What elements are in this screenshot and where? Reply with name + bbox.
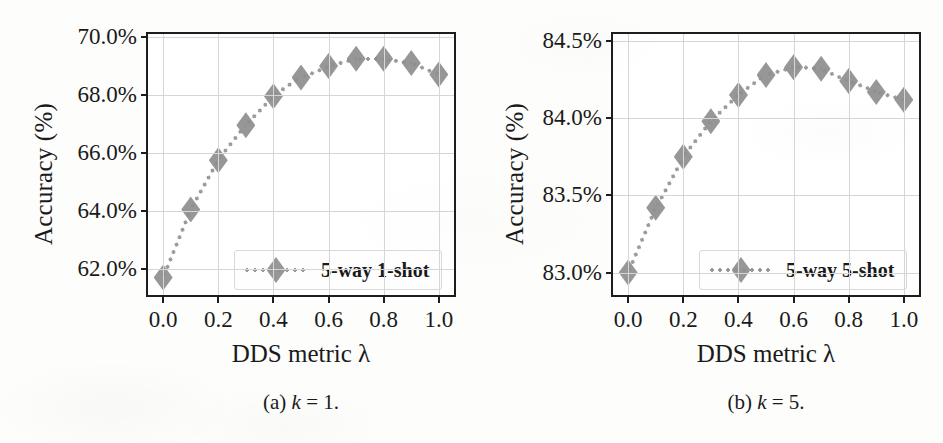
gridline-horizontal bbox=[613, 118, 919, 119]
gridline-horizontal bbox=[613, 195, 919, 196]
caption-variable-a: k bbox=[292, 390, 301, 414]
x-axis-tick-label-a-4: 0.8 bbox=[369, 307, 398, 333]
series-line-segment bbox=[161, 209, 192, 279]
x-axis-tick-label-a-2: 0.4 bbox=[259, 307, 288, 333]
x-axis-tick-label-a-5: 1.0 bbox=[424, 307, 453, 333]
y-axis-title-a: Accuracy (%) bbox=[30, 64, 58, 284]
y-axis-tick-label-a-1: 64.0% bbox=[78, 198, 137, 224]
gridline-vertical bbox=[273, 34, 274, 295]
y-axis-tick-b-1 bbox=[606, 194, 613, 196]
legend-label-b: 5-way 5-shot bbox=[786, 259, 894, 282]
gridline-vertical bbox=[794, 34, 795, 295]
gridline-horizontal bbox=[148, 95, 454, 96]
y-axis-tick-a-1 bbox=[141, 210, 148, 212]
y-axis-tick-label-a-2: 66.0% bbox=[78, 140, 137, 166]
legend-marker-sample-b bbox=[708, 257, 774, 283]
data-point-marker bbox=[757, 62, 776, 88]
x-axis-tick-b-2 bbox=[737, 295, 739, 303]
y-axis-tick-label-a-4: 70.0% bbox=[78, 24, 137, 50]
data-point-marker bbox=[292, 65, 311, 91]
y-axis-tick-a-4 bbox=[141, 36, 148, 38]
x-axis-tick-a-2 bbox=[272, 295, 274, 303]
legend-label-a: 5-way 1-shot bbox=[321, 259, 429, 282]
gridline-horizontal bbox=[613, 273, 919, 274]
x-axis-tick-label-b-0: 0.0 bbox=[614, 307, 643, 333]
gridline-vertical bbox=[738, 34, 739, 295]
figure-container: Accuracy (%) 5-way 1-shot 62.0%64.0%66.0… bbox=[0, 0, 943, 443]
legend-diamond-marker-icon-b bbox=[732, 257, 751, 283]
x-axis-title-a: DDS metric λ bbox=[146, 340, 456, 368]
legend-diamond-marker-icon-a bbox=[267, 257, 286, 283]
chart-panel-b: Accuracy (%) 5-way 5-shot 83.0%83.5%84.0… bbox=[471, 0, 942, 443]
legend-marker-sample-a bbox=[243, 257, 309, 283]
caption-value-b: = 5. bbox=[772, 390, 805, 414]
data-point-marker bbox=[402, 50, 421, 76]
y-axis-tick-a-0 bbox=[141, 268, 148, 270]
x-axis-tick-a-5 bbox=[438, 295, 440, 303]
gridline-vertical bbox=[683, 34, 684, 295]
gridline-horizontal bbox=[613, 41, 919, 42]
gridline-horizontal bbox=[148, 269, 454, 270]
gridline-vertical bbox=[439, 34, 440, 295]
x-axis-tick-label-b-1: 0.2 bbox=[669, 307, 698, 333]
subfigure-caption-a: (a) k = 1. bbox=[146, 390, 456, 415]
subfigure-caption-b: (b) k = 5. bbox=[611, 390, 921, 415]
x-axis-tick-a-0 bbox=[162, 295, 164, 303]
x-axis-tick-b-0 bbox=[627, 295, 629, 303]
gridline-vertical bbox=[329, 34, 330, 295]
x-axis-tick-a-3 bbox=[328, 295, 330, 303]
gridline-horizontal bbox=[148, 211, 454, 212]
y-axis-tick-b-0 bbox=[606, 272, 613, 274]
x-axis-tick-b-5 bbox=[903, 295, 905, 303]
gridline-horizontal bbox=[148, 37, 454, 38]
y-axis-tick-label-b-1: 83.5% bbox=[543, 182, 602, 208]
legend-b: 5-way 5-shot bbox=[699, 250, 907, 290]
y-axis-tick-b-2 bbox=[606, 117, 613, 119]
gridline-vertical bbox=[163, 34, 164, 295]
y-axis-tick-label-a-3: 68.0% bbox=[78, 82, 137, 108]
gridline-horizontal bbox=[148, 153, 454, 154]
gridline-vertical bbox=[218, 34, 219, 295]
gridline-vertical bbox=[384, 34, 385, 295]
x-axis-tick-label-b-2: 0.4 bbox=[724, 307, 753, 333]
x-axis-tick-label-b-4: 0.8 bbox=[834, 307, 863, 333]
data-point-marker bbox=[812, 56, 831, 82]
x-axis-title-b: DDS metric λ bbox=[611, 340, 921, 368]
x-axis-tick-b-3 bbox=[793, 295, 795, 303]
legend-a: 5-way 1-shot bbox=[234, 250, 442, 290]
y-axis-title-b: Accuracy (%) bbox=[501, 64, 529, 284]
x-axis-tick-label-a-0: 0.0 bbox=[149, 307, 178, 333]
y-axis-tick-label-a-0: 62.0% bbox=[78, 256, 137, 282]
caption-prefix-a: (a) bbox=[263, 390, 286, 414]
plot-area-a: 5-way 1-shot 62.0%64.0%66.0%68.0%70.0%0.… bbox=[146, 32, 456, 297]
gridline-vertical bbox=[849, 34, 850, 295]
x-axis-tick-b-4 bbox=[848, 295, 850, 303]
y-axis-tick-b-3 bbox=[606, 40, 613, 42]
plot-area-b: 5-way 5-shot 83.0%83.5%84.0%84.5%0.00.20… bbox=[611, 32, 921, 297]
x-axis-tick-label-a-3: 0.6 bbox=[314, 307, 343, 333]
y-axis-tick-label-b-2: 84.0% bbox=[543, 105, 602, 131]
x-axis-tick-b-1 bbox=[682, 295, 684, 303]
x-axis-tick-a-4 bbox=[383, 295, 385, 303]
x-axis-tick-label-a-1: 0.2 bbox=[204, 307, 233, 333]
chart-panel-a: Accuracy (%) 5-way 1-shot 62.0%64.0%66.0… bbox=[0, 0, 471, 443]
series-line-segment bbox=[626, 207, 657, 273]
caption-value-a: = 1. bbox=[306, 390, 339, 414]
data-point-marker bbox=[347, 46, 366, 72]
gridline-vertical bbox=[904, 34, 905, 295]
gridline-vertical bbox=[628, 34, 629, 295]
y-axis-tick-a-3 bbox=[141, 94, 148, 96]
caption-variable-b: k bbox=[757, 390, 766, 414]
y-axis-tick-a-2 bbox=[141, 152, 148, 154]
caption-prefix-b: (b) bbox=[727, 390, 752, 414]
x-axis-tick-label-b-3: 0.6 bbox=[779, 307, 808, 333]
data-point-marker bbox=[867, 79, 886, 105]
x-axis-tick-label-b-5: 1.0 bbox=[889, 307, 918, 333]
x-axis-tick-a-1 bbox=[217, 295, 219, 303]
y-axis-tick-label-b-3: 84.5% bbox=[543, 28, 602, 54]
y-axis-tick-label-b-0: 83.0% bbox=[543, 260, 602, 286]
